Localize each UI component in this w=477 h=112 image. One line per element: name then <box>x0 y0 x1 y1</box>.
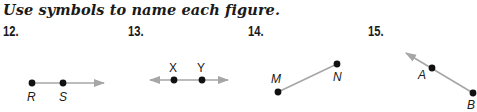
point-b <box>470 90 477 97</box>
label-b: B <box>467 98 475 112</box>
segment-line <box>278 64 337 92</box>
figure-13-line-xy: X Y <box>150 61 228 83</box>
label-y: Y <box>197 61 205 75</box>
point-m <box>275 89 282 96</box>
label-s: S <box>59 90 67 104</box>
point-s <box>60 80 67 87</box>
point-r <box>29 80 36 87</box>
figure-15-ray-ba: A B <box>406 53 476 112</box>
figures-canvas: R S X Y M N A B <box>0 0 477 112</box>
label-m: M <box>271 72 281 86</box>
ray-line <box>406 53 473 93</box>
point-a <box>429 65 436 72</box>
figure-14-segment-mn: M N <box>271 61 342 96</box>
label-r: R <box>27 90 36 104</box>
label-n: N <box>333 70 342 84</box>
point-x <box>171 77 178 84</box>
figure-12-ray-rs: R S <box>27 80 104 104</box>
point-y <box>199 77 206 84</box>
point-n <box>334 61 341 68</box>
label-a: A <box>417 68 426 82</box>
label-x: X <box>169 61 177 75</box>
